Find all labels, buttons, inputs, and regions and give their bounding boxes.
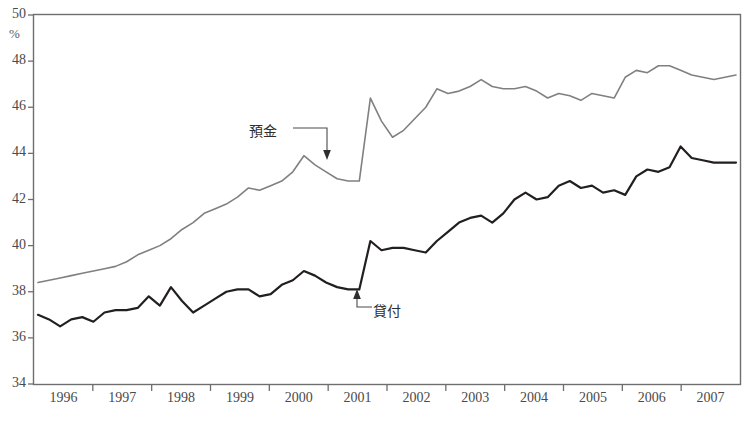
x-tick-label-2002: 2002: [388, 390, 444, 406]
annotation-label-loans: 貸付: [373, 300, 401, 320]
y-tick-label-36: 36: [2, 329, 26, 345]
x-tick-label-2003: 2003: [447, 390, 503, 406]
x-tick-label-1996: 1996: [35, 390, 91, 406]
x-tick-label-1999: 1999: [212, 390, 268, 406]
y-axis-unit-label: %: [9, 26, 20, 42]
x-tick-label-2007: 2007: [683, 390, 739, 406]
y-tick-label-34: 34: [2, 375, 26, 391]
y-tick-label-48: 48: [2, 52, 26, 68]
annotation-label-deposits: 預金: [249, 120, 277, 140]
x-tick-label-2001: 2001: [330, 390, 386, 406]
x-tick-label-2004: 2004: [506, 390, 562, 406]
plot-frame: [34, 15, 741, 385]
chart-plot-area: [0, 0, 750, 426]
y-tick-label-38: 38: [2, 283, 26, 299]
y-tick-label-50: 50: [2, 6, 26, 22]
y-tick-label-40: 40: [2, 237, 26, 253]
x-tick-label-2000: 2000: [271, 390, 327, 406]
x-tick-label-1998: 1998: [153, 390, 209, 406]
y-tick-label-44: 44: [2, 144, 26, 160]
x-tick-label-2005: 2005: [565, 390, 621, 406]
x-tick-label-1997: 1997: [94, 390, 150, 406]
y-tick-label-46: 46: [2, 98, 26, 114]
x-tick-label-2006: 2006: [624, 390, 680, 406]
y-tick-label-42: 42: [2, 191, 26, 207]
chart-container: % 預金 貸付 343638404244464850 1996199719981…: [0, 0, 750, 426]
